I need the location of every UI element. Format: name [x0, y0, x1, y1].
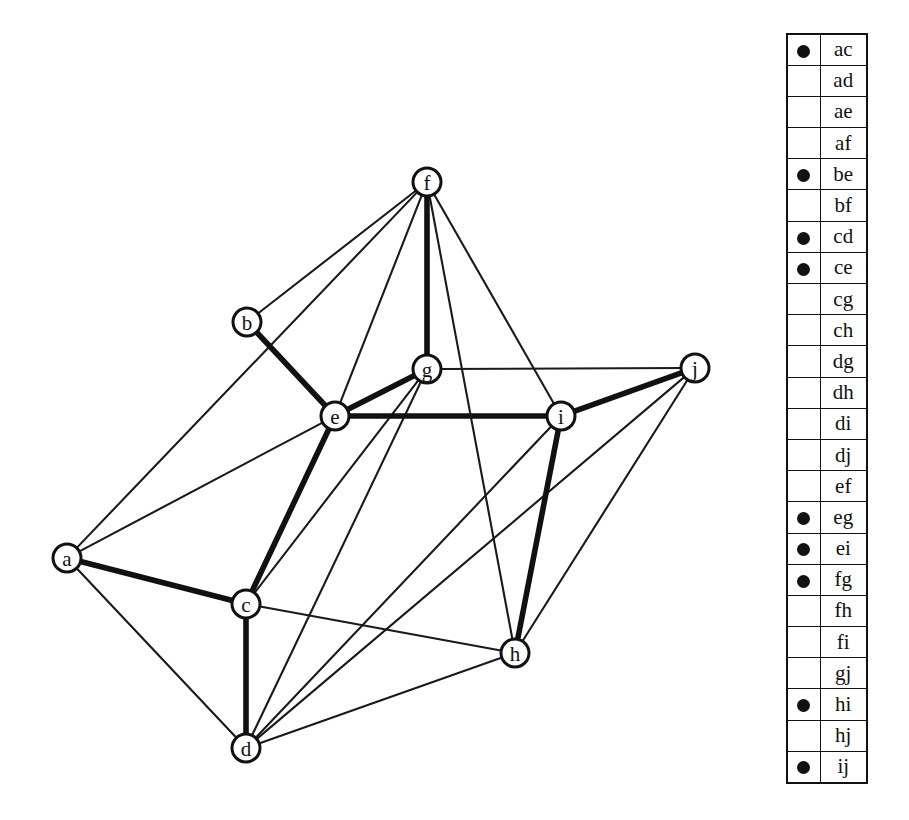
legend-mark-cell-fi: [787, 627, 820, 658]
legend-row: cg: [787, 284, 867, 315]
legend-pair-label: fh: [820, 595, 867, 626]
graph-node-b: b: [233, 308, 261, 336]
legend-mark-cell-ef: [787, 471, 820, 502]
graph-node-i: i: [547, 402, 575, 430]
legend-mark-cell-dh: [787, 377, 820, 408]
legend-row: ef: [787, 471, 867, 502]
legend-pair-label: dh: [820, 377, 867, 408]
legend-mark-cell-ch: [787, 315, 820, 346]
graph-node-c: c: [232, 590, 260, 618]
legend-pair-label: eg: [820, 502, 867, 533]
legend-mark-cell-fg: [787, 564, 820, 595]
graph-node-g: g: [413, 355, 441, 383]
legend-mark-cell-hi: [787, 689, 820, 720]
legend-pair-label: dg: [820, 346, 867, 377]
selected-dot-icon: [797, 761, 810, 774]
legend-pair-label: cd: [820, 221, 867, 252]
legend-row: gj: [787, 658, 867, 689]
legend-pair-label: ae: [820, 96, 867, 127]
selected-dot-icon: [797, 575, 810, 588]
legend-mark-cell-cg: [787, 284, 820, 315]
legend-mark-cell-ae: [787, 96, 820, 127]
legend-pair-label: ef: [820, 471, 867, 502]
legend-pair-label: ei: [820, 533, 867, 564]
graph-edge-eg: [347, 375, 416, 410]
selected-dot-icon: [797, 699, 810, 712]
graph-node-label-c: c: [241, 593, 250, 617]
legend-pair-label: af: [820, 128, 867, 159]
graph-node-e: e: [321, 402, 349, 430]
legend-mark-cell-gj: [787, 658, 820, 689]
selected-dot-icon: [797, 45, 810, 58]
graph-edge-ae: [78, 422, 323, 552]
graph-node-label-a: a: [62, 547, 72, 571]
legend-pair-label: fi: [820, 627, 867, 658]
graph-node-label-h: h: [510, 642, 521, 666]
selected-dot-icon: [797, 232, 810, 245]
legend-mark-cell-ij: [787, 751, 820, 782]
legend-row: ac: [787, 34, 867, 65]
legend-pair-label: di: [820, 408, 867, 439]
legend-row: hi: [787, 689, 867, 720]
graph-edge-fi: [433, 193, 554, 404]
legend-pair-label: ad: [820, 65, 867, 96]
legend-pair-label: hj: [820, 720, 867, 751]
graph-edge-gj: [440, 368, 682, 369]
legend-mark-cell-hj: [787, 720, 820, 751]
legend-pair-label: dj: [820, 439, 867, 470]
legend-mark-cell-bf: [787, 190, 820, 221]
selected-dot-icon: [797, 263, 810, 276]
legend-mark-cell-ce: [787, 252, 820, 283]
legend-row: di: [787, 408, 867, 439]
legend-row: ce: [787, 252, 867, 283]
graph-edge-be: [256, 331, 326, 406]
legend-row: ij: [787, 751, 867, 782]
edges-layer: [76, 190, 688, 744]
graph-panel: abcdefghij: [0, 0, 760, 820]
legend-row: dj: [787, 439, 867, 470]
graph-node-f: f: [413, 168, 441, 196]
legend-mark-cell-fh: [787, 595, 820, 626]
legend-row: ad: [787, 65, 867, 96]
graph-node-h: h: [501, 639, 529, 667]
graph-node-label-d: d: [241, 737, 252, 761]
selected-dot-icon: [797, 512, 810, 525]
selected-dot-icon: [797, 169, 810, 182]
legend-row: fi: [787, 627, 867, 658]
graph-node-a: a: [53, 544, 81, 572]
edge-legend-table: acadaeafbebfcdcecgchdgdhdidjefegeifgfhfi…: [786, 33, 868, 784]
legend-pair-label: hi: [820, 689, 867, 720]
legend-row: dh: [787, 377, 867, 408]
graph-edge-hi: [517, 429, 558, 640]
legend-mark-cell-ei: [787, 533, 820, 564]
graph-edge-bf: [257, 190, 416, 314]
legend-pair-label: gj: [820, 658, 867, 689]
legend-row: ch: [787, 315, 867, 346]
graph-node-label-i: i: [558, 405, 564, 429]
legend-row: af: [787, 128, 867, 159]
legend-mark-cell-be: [787, 159, 820, 190]
graph-node-d: d: [232, 734, 260, 762]
legend-pair-label: ac: [820, 34, 867, 65]
graph-node-j: j: [681, 354, 709, 382]
legend-row: ae: [787, 96, 867, 127]
legend-mark-cell-dj: [787, 439, 820, 470]
graph-node-label-f: f: [424, 171, 431, 195]
legend-mark-cell-ad: [787, 65, 820, 96]
legend-pair-label: ij: [820, 751, 867, 782]
legend-pair-label: be: [820, 159, 867, 190]
graph-canvas: abcdefghij: [0, 0, 760, 820]
legend-pair-label: ce: [820, 252, 867, 283]
edge-legend-body: acadaeafbebfcdcecgchdgdhdidjefegeifgfhfi…: [787, 34, 867, 783]
legend-mark-cell-ac: [787, 34, 820, 65]
graph-edge-dj: [256, 376, 685, 739]
graph-node-label-e: e: [330, 405, 339, 429]
selected-dot-icon: [797, 543, 810, 556]
legend-row: hj: [787, 720, 867, 751]
legend-row: fh: [787, 595, 867, 626]
legend-mark-cell-cd: [787, 221, 820, 252]
graph-node-label-g: g: [422, 358, 433, 382]
legend-mark-cell-eg: [787, 502, 820, 533]
legend-row: dg: [787, 346, 867, 377]
graph-node-label-j: j: [691, 357, 698, 381]
